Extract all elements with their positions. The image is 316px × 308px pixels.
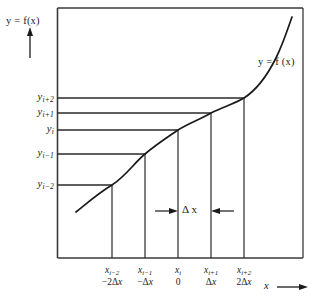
curve-label: y = f (x) — [258, 57, 295, 68]
x-tick-label-i-plus-2: xi+2 2Δx — [222, 264, 266, 288]
plot-frame — [58, 8, 304, 258]
figure-graph-of-function: y = f(x) y = f (x) Δ x x yi+2 yi+1 yi yi… — [0, 0, 316, 308]
ordinate-lines — [112, 98, 244, 258]
function-curve — [76, 17, 292, 212]
y-tick-label-i-plus-2: yi+2 — [10, 92, 54, 103]
x-axis-arrow-icon — [277, 284, 308, 290]
y-axis-arrow-icon — [27, 27, 33, 58]
delta-x-label: Δ x — [182, 204, 197, 215]
y-tick-label-i: yi — [10, 124, 54, 135]
y-tick-label-i-minus-2: yi−2 — [10, 179, 54, 190]
y-tick-label-i-minus-1: yi−1 — [10, 148, 54, 159]
y-tick-label-i-plus-1: yi+1 — [10, 107, 54, 118]
y-axis-title: y = f(x) — [6, 16, 40, 27]
